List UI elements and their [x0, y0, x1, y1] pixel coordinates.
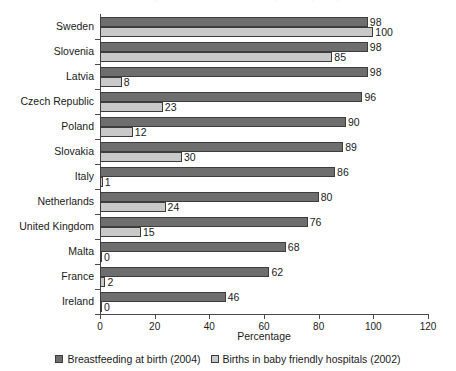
category-label: Malta [68, 245, 94, 257]
x-tick [100, 314, 101, 319]
category-label: Poland [61, 120, 94, 132]
category-label: Ireland [62, 295, 94, 307]
x-tick [373, 314, 374, 319]
bar-value-label: 98 [370, 65, 382, 77]
bar-value-label: 8 [124, 75, 130, 87]
bar: 76 [100, 217, 308, 227]
bar-value-label: 85 [334, 50, 346, 62]
bar: 98 [100, 42, 368, 52]
category-label: Slovakia [54, 145, 94, 157]
bar-value-label: 98 [370, 40, 382, 52]
category-label: Slovenia [54, 45, 94, 57]
bar-value-label: 15 [143, 225, 155, 237]
category-label: France [61, 270, 94, 282]
bar: 0 [100, 252, 102, 262]
bar-value-label: 90 [348, 115, 360, 127]
category-label: Latvia [66, 70, 94, 82]
x-axis-title: Percentage [100, 330, 428, 342]
bar-group: Latvia988 [100, 64, 428, 89]
x-tick [264, 314, 265, 319]
legend-swatch-icon [211, 355, 219, 363]
bar: 100 [100, 27, 373, 37]
bar: 30 [100, 152, 182, 162]
category-label: United Kingdom [19, 220, 94, 232]
bar: 8 [100, 77, 122, 87]
bar: 2 [100, 277, 105, 287]
plot-area: 020406080100120 Sweden98100Slovenia9885L… [100, 14, 428, 314]
bar-group: United Kingdom7615 [100, 214, 428, 239]
y-tick [95, 314, 100, 315]
bar-value-label: 96 [364, 90, 376, 102]
legend-swatch-icon [55, 355, 63, 363]
bar: 0 [100, 302, 102, 312]
bar-value-label: 46 [228, 290, 240, 302]
legend-item[interactable]: Births in baby friendly hospitals (2002) [211, 353, 401, 365]
bar: 1 [100, 177, 103, 187]
bar-group: Malta680 [100, 239, 428, 264]
bar-value-label: 76 [310, 215, 322, 227]
bar: 98 [100, 67, 368, 77]
chart-title: Breastfeeding at birth and births in bab… [0, 0, 456, 2]
bar: 12 [100, 127, 133, 137]
category-label: Netherlands [37, 195, 94, 207]
bar-group: Italy861 [100, 164, 428, 189]
bar-value-label: 62 [271, 265, 283, 277]
x-tick [428, 314, 429, 319]
bar-group: Netherlands8024 [100, 189, 428, 214]
bar: 24 [100, 202, 166, 212]
bar-group: Ireland460 [100, 289, 428, 314]
legend-label: Births in baby friendly hospitals (2002) [223, 353, 401, 365]
bar: 62 [100, 267, 269, 277]
bar-value-label: 24 [168, 200, 180, 212]
bar-group: Slovenia9885 [100, 39, 428, 64]
bar-value-label: 0 [104, 250, 110, 262]
bar-value-label: 68 [288, 240, 300, 252]
bar: 89 [100, 142, 343, 152]
bar: 85 [100, 52, 332, 62]
x-tick [209, 314, 210, 319]
bar-value-label: 1 [105, 175, 111, 187]
bar: 46 [100, 292, 226, 302]
bar-group: Poland9012 [100, 114, 428, 139]
bar-group: Sweden98100 [100, 14, 428, 39]
legend-label: Breastfeeding at birth (2004) [67, 353, 200, 365]
bar: 80 [100, 192, 319, 202]
bar-value-label: 89 [345, 140, 357, 152]
bar: 68 [100, 242, 286, 252]
bar-value-label: 23 [165, 100, 177, 112]
category-label: Italy [75, 170, 94, 182]
bar-value-label: 80 [321, 190, 333, 202]
bar-value-label: 86 [337, 165, 349, 177]
x-tick [319, 314, 320, 319]
legend-item[interactable]: Breastfeeding at birth (2004) [55, 353, 200, 365]
bar: 86 [100, 167, 335, 177]
bar-value-label: 0 [104, 300, 110, 312]
bar: 96 [100, 92, 362, 102]
x-tick [155, 314, 156, 319]
bar-value-label: 12 [135, 125, 147, 137]
bar: 98 [100, 17, 368, 27]
bar-value-label: 2 [107, 275, 113, 287]
bar: 23 [100, 102, 163, 112]
bar-group: Czech Republic9623 [100, 89, 428, 114]
bar-value-label: 30 [184, 150, 196, 162]
bar-group: France622 [100, 264, 428, 289]
bar: 15 [100, 227, 141, 237]
chart-legend: Breastfeeding at birth (2004)Births in b… [0, 353, 456, 365]
category-label: Czech Republic [20, 95, 94, 107]
bar-group: Slovakia8930 [100, 139, 428, 164]
bar-chart: Breastfeeding at birth and births in bab… [0, 0, 456, 371]
category-label: Sweden [56, 20, 94, 32]
bar-value-label: 100 [375, 25, 393, 37]
